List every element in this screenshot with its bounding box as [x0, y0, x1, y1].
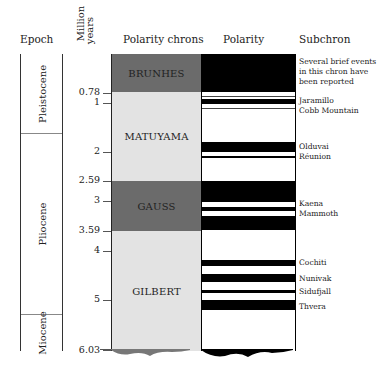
subchron-kaena: Kaena — [299, 199, 323, 209]
normal-band-olduvai — [202, 142, 295, 152]
normal-band-gauss-1 — [202, 181, 295, 202]
epoch-label: Pleistocene — [36, 64, 47, 122]
normal-band-gauss-2 — [202, 207, 295, 211]
age-tick-label: 4 — [60, 244, 100, 255]
subchron-cobb-mountain: Cobb Mountain — [299, 106, 359, 116]
truncation-wave-icon — [100, 348, 300, 360]
epoch-column: Pleistocene Pliocene Miocene — [20, 54, 63, 351]
subchron-jaramillo: Jaramillo — [299, 96, 334, 106]
age-tick-label: 5 — [60, 293, 100, 304]
subchron-nunivak: Nunivak — [299, 274, 331, 284]
normal-line-cobb-mountain — [202, 108, 295, 109]
chron-brunhes: BRUNHES — [112, 54, 201, 92]
normal-band-jaramillo — [202, 99, 295, 104]
polarity-column — [201, 54, 296, 351]
header-subchron: Subchron — [299, 33, 350, 45]
age-tick-label: 3.59 — [60, 224, 100, 235]
subchron-mammoth: Mammoth — [299, 209, 338, 219]
normal-band-sidufjall — [202, 290, 295, 293]
header-polarity: Polarity — [223, 33, 264, 45]
note-line: in this chron have — [299, 67, 376, 77]
header-polarity-chrons: Polarity chrons — [123, 33, 204, 45]
epoch-miocene: Miocene — [21, 314, 62, 351]
normal-band-reunion — [202, 156, 295, 158]
subchron-thvera: Thvera — [299, 302, 326, 312]
chron-matuyama: MATUYAMA — [112, 92, 201, 181]
subchron-olduvai: Olduvai — [299, 142, 329, 152]
epoch-pliocene: Pliocene — [21, 133, 62, 314]
subchron-sidufjall: Sidufjall — [299, 287, 331, 297]
note-line: been reported — [299, 77, 376, 87]
normal-band-brunhes — [202, 54, 295, 92]
age-tick-label: 1 — [60, 96, 100, 107]
header-years: years — [84, 16, 95, 46]
epoch-label: Miocene — [36, 311, 47, 354]
epoch-label: Pliocene — [36, 202, 47, 245]
normal-band-nunivak — [202, 274, 295, 282]
age-tick-label: 2.59 — [60, 174, 100, 185]
subchron-cochiti: Cochiti — [299, 258, 326, 268]
age-tick-label: 6.03 — [60, 344, 100, 355]
normal-band-gauss-3 — [202, 216, 295, 230]
age-tick-label: 2 — [60, 145, 100, 156]
age-tick-label: 3 — [60, 194, 100, 205]
subchron-reunion: Réunion — [299, 152, 331, 162]
chron-gilbert: GILBERT — [112, 231, 201, 351]
header-epoch: Epoch — [20, 33, 53, 45]
band-edge — [202, 96, 295, 97]
normal-band-cochiti — [202, 260, 295, 266]
note-line: Several brief events — [299, 57, 376, 67]
epoch-pleistocene: Pleistocene — [21, 54, 62, 133]
normal-band-thvera — [202, 300, 295, 310]
chron-gauss: GAUSS — [112, 181, 201, 231]
polarity-chrons-column: BRUNHES MATUYAMA GAUSS GILBERT — [111, 54, 201, 351]
subchron-brunhes-note: Several brief events in this chron have … — [299, 57, 376, 87]
